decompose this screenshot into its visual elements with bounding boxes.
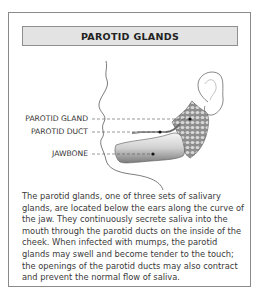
pointer-dot-jawbone: [151, 152, 154, 155]
label-jawbone: JAWBONE: [52, 149, 88, 158]
jawbone-shape: [115, 133, 185, 163]
ear-outline: [198, 72, 223, 115]
pointer-dot-duct: [158, 130, 161, 133]
parotid-diagram: [0, 0, 260, 200]
caption-text: The parotid glands, one of three sets of…: [22, 191, 244, 284]
pointer-dot-gland: [188, 117, 191, 120]
label-parotid-gland: PAROTID GLAND: [25, 114, 88, 123]
label-parotid-duct: PAROTID DUCT: [31, 127, 88, 136]
face-profile-outline: [99, 61, 163, 190]
